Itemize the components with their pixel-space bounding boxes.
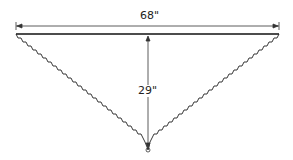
shawl-schematic bbox=[0, 0, 293, 160]
depth-label: 29" bbox=[138, 85, 157, 97]
width-dimension-line bbox=[16, 22, 279, 30]
left-scalloped-edge bbox=[16, 34, 148, 150]
width-label: 68" bbox=[140, 10, 159, 22]
right-scalloped-edge bbox=[148, 34, 279, 150]
